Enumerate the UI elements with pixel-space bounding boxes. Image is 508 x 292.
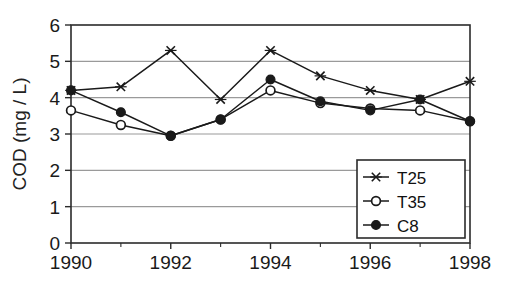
data-point-C8-1995 <box>316 97 325 106</box>
legend-label-T35: T35 <box>397 193 426 212</box>
legend-marker-T35 <box>372 197 381 206</box>
y-tick-label: 5 <box>49 51 60 72</box>
x-tick-label: 1992 <box>150 252 192 273</box>
y-tick-label: 1 <box>49 197 60 218</box>
data-point-C8-1990 <box>67 86 76 95</box>
data-point-T35-1997 <box>416 106 425 115</box>
chart-background <box>0 0 508 292</box>
data-point-C8-1993 <box>216 115 225 124</box>
legend-marker-C8 <box>372 221 381 230</box>
data-point-C8-1992 <box>166 131 175 140</box>
x-tick-label: 1994 <box>249 252 292 273</box>
cod-line-chart: 19901992199419961998 0123456 COD (mg / L… <box>0 0 508 292</box>
data-point-T35-1990 <box>67 106 76 115</box>
x-tick-label: 1996 <box>349 252 391 273</box>
data-point-T35-1991 <box>116 121 125 130</box>
data-point-C8-1994 <box>266 75 275 84</box>
data-point-C8-1998 <box>466 117 475 126</box>
x-tick-label: 1998 <box>449 252 491 273</box>
x-tick-label: 1990 <box>50 252 92 273</box>
data-point-C8-1997 <box>416 95 425 104</box>
data-point-C8-1996 <box>366 106 375 115</box>
chart-container: 19901992199419961998 0123456 COD (mg / L… <box>0 0 508 292</box>
y-tick-label: 3 <box>49 124 60 145</box>
y-axis-title-text: COD (mg / L) <box>9 78 30 191</box>
y-tick-label: 4 <box>49 88 60 109</box>
data-point-T35-1994 <box>266 86 275 95</box>
legend-label-T25: T25 <box>397 169 426 188</box>
legend-label-C8: C8 <box>397 217 419 236</box>
data-point-C8-1991 <box>116 108 125 117</box>
y-tick-label: 2 <box>49 160 60 181</box>
y-axis-title: COD (mg / L) <box>9 78 30 191</box>
y-tick-label: 6 <box>49 15 60 36</box>
y-tick-label: 0 <box>49 233 60 254</box>
chart-legend[interactable]: T25T35C8 <box>357 160 465 238</box>
